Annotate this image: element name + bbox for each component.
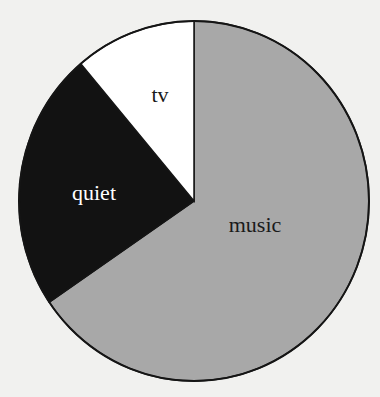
pie-chart: tv quiet music [0,0,380,397]
slice-label-quiet: quiet [72,180,116,205]
slice-label-music: music [229,212,282,237]
slice-label-tv: tv [151,82,168,107]
